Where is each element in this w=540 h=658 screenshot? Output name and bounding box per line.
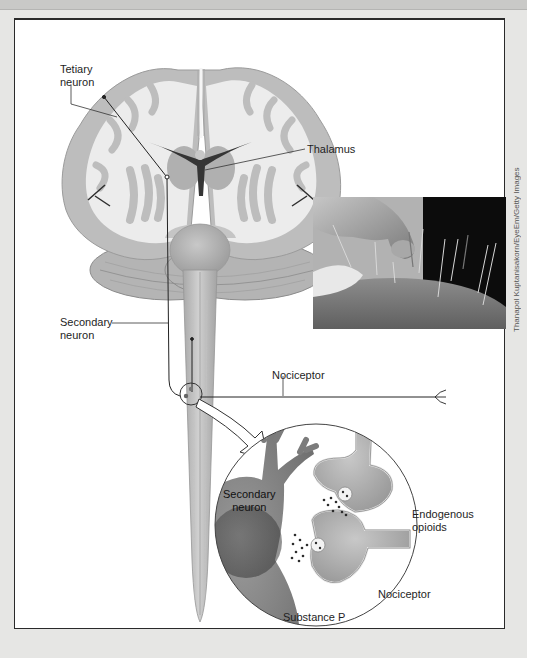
label-substance-p: Substance P (283, 611, 345, 624)
spinal-cord (183, 270, 217, 622)
label-inset-secondary-neuron: Secondary neuron (223, 488, 276, 514)
acupuncture-photo (313, 197, 506, 329)
photo-credit: Thanapol Kuptanisakorn/EyeEm/Getty Image… (510, 190, 522, 332)
label-line: neuron (60, 76, 94, 89)
label-inset-nociceptor: Nociceptor (378, 588, 431, 601)
label-secondary-neuron: Secondary neuron (60, 316, 113, 342)
label-nociceptor-pathway: Nociceptor (272, 369, 325, 382)
synapse-inset (210, 420, 417, 640)
label-line: Secondary (60, 316, 113, 329)
label-thalamus: Thalamus (307, 143, 355, 156)
label-tertiary-neuron: Tetiary neuron (60, 63, 94, 89)
label-line: Tetiary (60, 63, 94, 76)
label-line: neuron (60, 329, 113, 342)
label-endogenous-opioids: Endogenous opioids (412, 508, 474, 534)
label-line: Secondary (223, 488, 276, 501)
label-line: neuron (223, 501, 276, 514)
label-line: opioids (412, 521, 474, 534)
label-line: Endogenous (412, 508, 474, 521)
acupuncture-image (313, 197, 506, 329)
